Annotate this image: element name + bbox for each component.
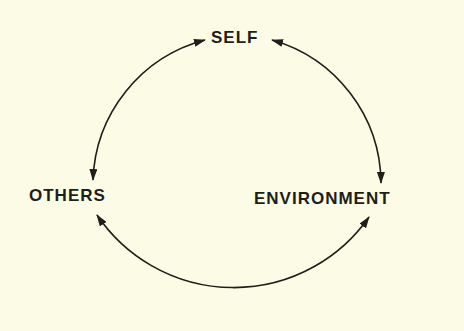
cycle-diagram <box>0 0 464 331</box>
node-others-label: OTHERS <box>29 186 106 206</box>
node-self-label: SELF <box>211 28 258 48</box>
arrow-self-others <box>93 40 205 180</box>
node-environment-label: ENVIRONMENT <box>254 189 391 209</box>
arrow-others-environment <box>97 215 369 288</box>
arrow-self-environment <box>272 40 381 183</box>
